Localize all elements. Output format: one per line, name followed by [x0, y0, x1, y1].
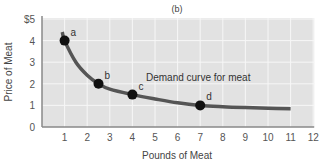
curve-annotation: Demand curve for meat [146, 72, 251, 83]
y-tick-label: 3 [29, 57, 35, 68]
point-label-b: b [105, 70, 111, 81]
x-tick-label: 9 [243, 132, 249, 143]
data-point-c [127, 90, 137, 100]
x-tick-label: 8 [220, 132, 226, 143]
y-axis-ticks: 01234$5 [24, 14, 36, 133]
data-point-d [195, 100, 205, 110]
demand-chart: (b) 123456789101112 01234$5 abcd Demand … [0, 0, 327, 167]
x-tick-label: 1 [62, 132, 68, 143]
y-tick-label: 2 [29, 79, 35, 90]
x-tick-label: 4 [130, 132, 136, 143]
chart-title: (b) [172, 4, 183, 14]
point-label-a: a [71, 27, 77, 38]
x-tick-label: 12 [308, 132, 320, 143]
x-axis-ticks: 123456789101112 [62, 132, 319, 143]
data-point-a [60, 36, 70, 46]
y-tick-label: 1 [29, 100, 35, 111]
data-point-b [94, 79, 104, 89]
point-label-d: d [206, 91, 212, 102]
x-tick-label: 2 [84, 132, 90, 143]
x-tick-label: 7 [197, 132, 203, 143]
x-axis-title: Pounds of Meat [142, 150, 212, 161]
x-tick-label: 6 [175, 132, 181, 143]
y-tick-label: $5 [24, 14, 36, 25]
x-tick-label: 5 [152, 132, 158, 143]
annotations: Demand curve for meat [146, 72, 251, 83]
x-tick-label: 3 [107, 132, 113, 143]
y-tick-label: 0 [29, 122, 35, 133]
point-label-c: c [138, 81, 143, 92]
x-tick-label: 10 [262, 132, 274, 143]
y-axis-title: Price of Meat [3, 42, 14, 101]
x-tick-label: 11 [285, 132, 296, 143]
y-tick-label: 4 [29, 36, 35, 47]
